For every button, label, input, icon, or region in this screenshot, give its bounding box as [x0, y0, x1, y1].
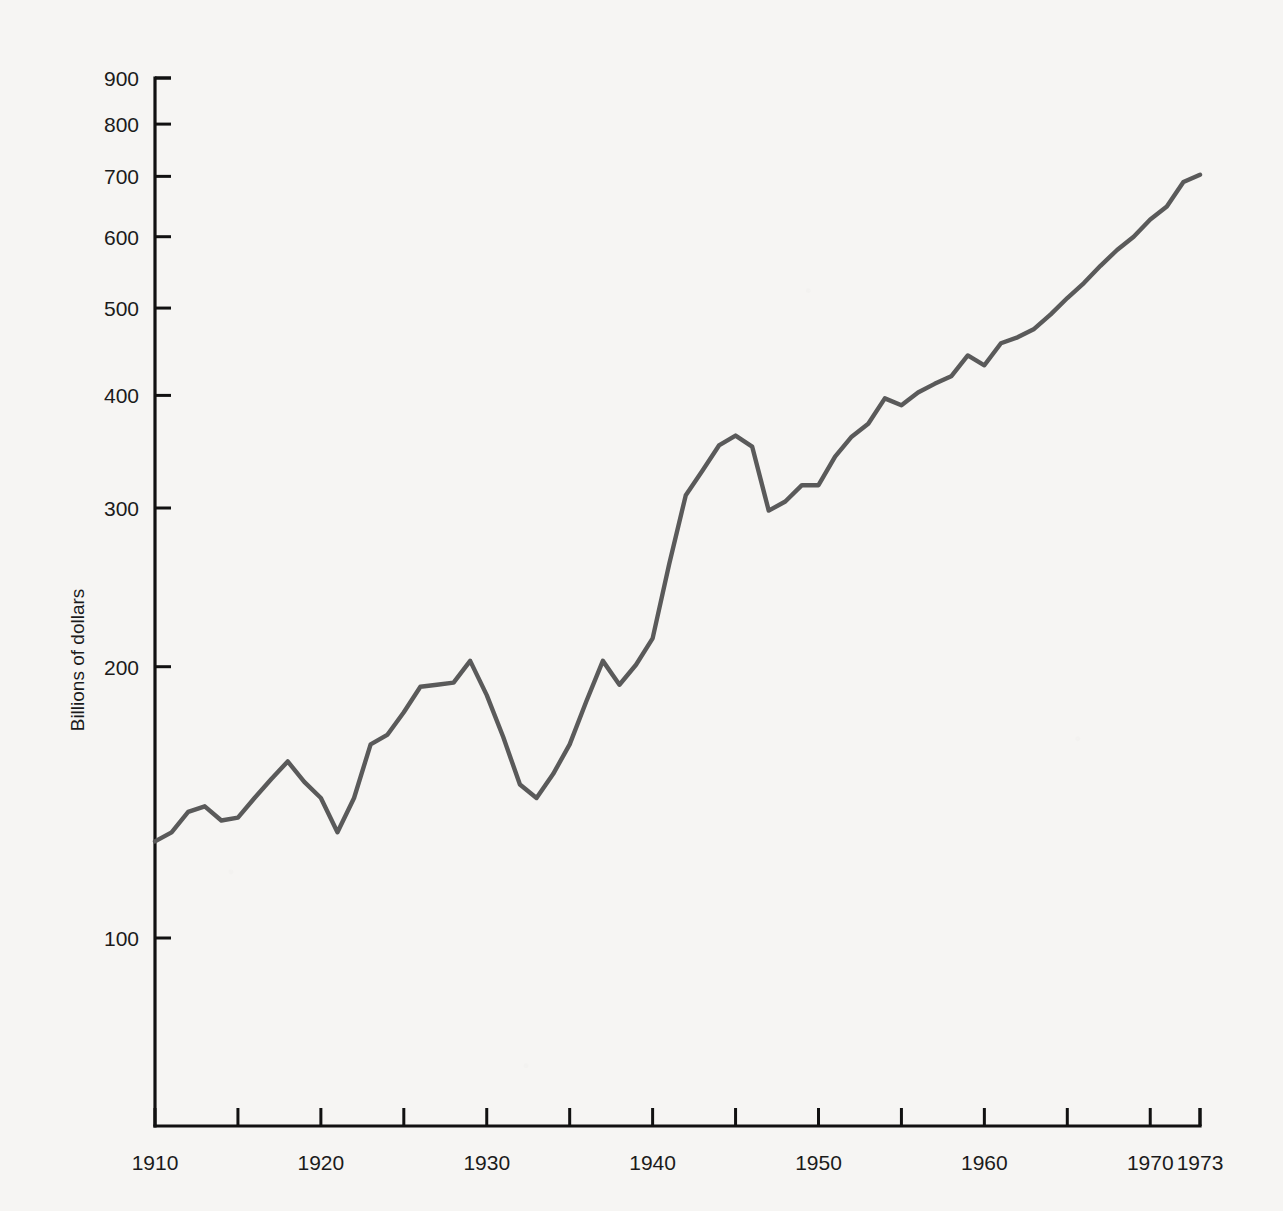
- y-tick-label-700: 700: [104, 165, 139, 188]
- y-tick-label-500: 500: [104, 297, 139, 320]
- x-tick-label-1940: 1940: [629, 1151, 676, 1174]
- y-tick-label-800: 800: [104, 113, 139, 136]
- x-tick-label-1910: 1910: [132, 1151, 179, 1174]
- y-tick-label-200: 200: [104, 656, 139, 679]
- y-axis-title: Billions of dollars: [67, 589, 88, 732]
- x-tick-label-1920: 1920: [298, 1151, 345, 1174]
- y-tick-label-900: 900: [104, 67, 139, 90]
- x-tick-label-1950: 1950: [795, 1151, 842, 1174]
- x-tick-label-1960: 1960: [961, 1151, 1008, 1174]
- line-chart-canvas: 100200300400500600700800900 191019201930…: [0, 0, 1283, 1211]
- chart-figure: 100200300400500600700800900 191019201930…: [0, 0, 1283, 1211]
- y-tick-label-600: 600: [104, 226, 139, 249]
- y-tick-label-400: 400: [104, 384, 139, 407]
- x-tick-label-1930: 1930: [463, 1151, 510, 1174]
- x-tick-label-1970: 1970: [1127, 1151, 1174, 1174]
- y-tick-label-100: 100: [104, 927, 139, 950]
- y-tick-label-300: 300: [104, 497, 139, 520]
- chart-background: [0, 0, 1283, 1211]
- x-tick-label-1973: 1973: [1177, 1151, 1224, 1174]
